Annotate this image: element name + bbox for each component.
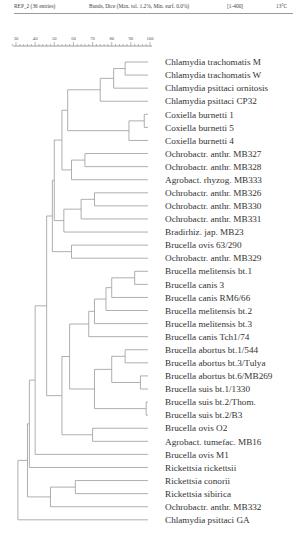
leaf-label: Chlamydia trachomatis M — [165, 57, 261, 67]
leaf-labels: Chlamydia trachomatis MChlamydia trachom… — [165, 57, 273, 525]
tree-branches — [18, 62, 148, 520]
leaf-label: Rickettsia conorii — [165, 476, 231, 486]
leaf-label: Brucella canis 3 — [165, 280, 225, 290]
similarity-scale: 30405060708090100 — [12, 36, 154, 46]
dendrogram: 30405060708090100 Chlamydia trachomatis … — [0, 0, 293, 538]
scale-tick-label: 80 — [109, 36, 114, 41]
scale-tick-label: 60 — [71, 36, 76, 41]
leaf-label: Brucella suis bt.1/1330 — [165, 384, 250, 394]
leaf-label: Chlamydia psittaci GA — [165, 515, 250, 525]
leaf-label: Brucella suis bt.2/B3 — [165, 410, 243, 420]
leaf-label: Brucella melitensis bt.2 — [165, 306, 252, 316]
leaf-label: Ochrobactr. anthr. MB330 — [165, 201, 262, 211]
leaf-label: Ochrobactr. anthr. MB332 — [165, 502, 262, 512]
scale-tick-label: 90 — [129, 36, 134, 41]
leaf-label: Chlamydia trachomatis W — [165, 70, 262, 80]
scale-tick-label: 40 — [33, 36, 38, 41]
leaf-label: Chlamydia psittaci ornitosis — [165, 83, 269, 93]
scale-tick-label: 50 — [52, 36, 57, 41]
leaf-label: Brucella suis bt.2/Thom. — [165, 397, 256, 407]
leaf-label: Brucella abortus bt.3/Tulya — [165, 358, 265, 368]
leaf-label: Brucella melitensis bt.3 — [165, 319, 252, 329]
scale-tick-label: 100 — [147, 36, 155, 41]
leaf-label: Agrobact. rhyzog. MB333 — [165, 175, 262, 185]
leaf-label: Ochrobactr. anthr. MB326 — [165, 188, 262, 198]
leaf-label: Brucella melitensis bt.1 — [165, 266, 252, 276]
leaf-label: Ochrobactr. anthr. MB331 — [165, 214, 262, 224]
leaf-label: Brucella abortus bt.1/544 — [165, 345, 259, 355]
leaf-label: Rickettsia sibirica — [165, 489, 231, 499]
leaf-label: Ochrobactr. anthr. MB327 — [165, 149, 262, 159]
leaf-label: Chlamydia psittaci CP32 — [165, 96, 257, 106]
leaf-label: Brucella ovis 63/290 — [165, 240, 242, 250]
leaf-label: Agrobact. tumefac. MB16 — [165, 437, 262, 447]
leaf-label: Coxiella burnetti 5 — [165, 123, 234, 133]
leaf-label: Coxiella burnetti 4 — [165, 136, 234, 146]
leaf-label: Ochrobactr. anthr. MB329 — [165, 253, 262, 263]
scale-tick-label: 30 — [14, 36, 19, 41]
leaf-label: Brucella canis Tch1/74 — [165, 332, 250, 342]
scale-tick-label: 70 — [90, 36, 95, 41]
leaf-label: Bradirhiz. jap. MB23 — [165, 227, 244, 237]
leaf-label: Brucella canis RM6/66 — [165, 293, 251, 303]
leaf-label: Ochrobactr. anthr. MB328 — [165, 162, 262, 172]
leaf-label: Brucella abortus bt.6/MB269 — [165, 371, 273, 381]
leaf-label: Brucella ovis M1 — [165, 450, 229, 460]
leaf-label: Brucella ovis O2 — [165, 423, 228, 433]
leaf-label: Rickettsia rickettsii — [165, 463, 237, 473]
leaf-label: Coxiella burnetti 1 — [165, 110, 234, 120]
